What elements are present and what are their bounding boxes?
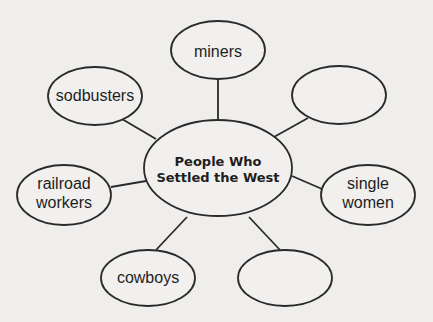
node-sodbusters-label: sodbusters xyxy=(56,87,134,104)
node-cowboys: cowboys xyxy=(101,250,195,306)
node-railroad-workers-label-line2: workers xyxy=(35,194,92,211)
connector-blank-top-right xyxy=(274,118,308,137)
node-single-women-label-line2: women xyxy=(341,194,394,211)
node-blank-top-right xyxy=(292,66,386,124)
center-label-line1: People Who xyxy=(175,154,262,169)
node-cowboys-label: cowboys xyxy=(117,269,179,286)
node-miners: miners xyxy=(171,21,265,79)
node-single-women: single women xyxy=(321,165,415,225)
connector-cowboys xyxy=(156,217,187,250)
center-node: People Who Settled the West xyxy=(144,120,292,216)
connector-blank-bottom-right xyxy=(249,217,280,250)
concept-web-diagram: People Who Settled the West miners sodbu… xyxy=(0,0,433,322)
node-sodbusters: sodbusters xyxy=(48,67,142,125)
node-blank-bottom-right xyxy=(238,250,332,306)
node-miners-label: miners xyxy=(194,43,242,60)
connector-sodbusters xyxy=(122,119,156,139)
node-single-women-label-line1: single xyxy=(347,175,389,192)
connector-railroad-workers xyxy=(111,181,146,187)
connector-single-women xyxy=(292,176,322,189)
node-railroad-workers: railroad workers xyxy=(17,165,111,225)
node-railroad-workers-label-line1: railroad xyxy=(37,175,90,192)
center-label-line2: Settled the West xyxy=(156,170,279,185)
